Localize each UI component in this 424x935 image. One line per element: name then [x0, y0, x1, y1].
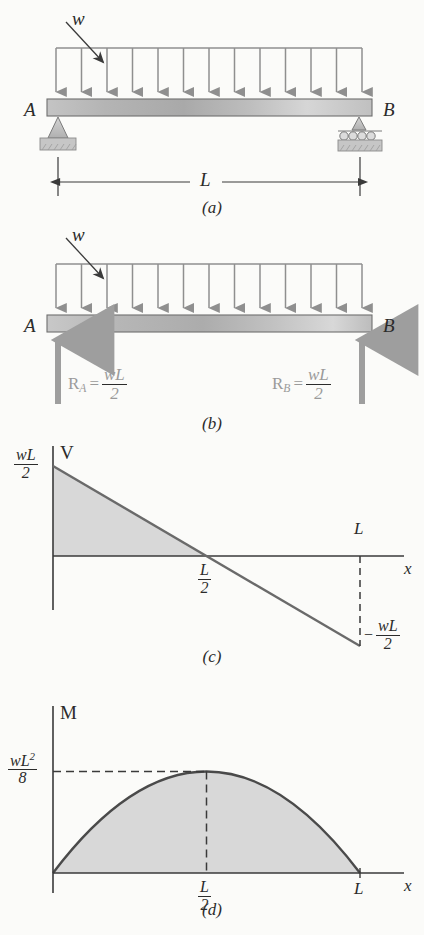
panel-b-support-a-label: A [24, 315, 36, 337]
reaction-a-equation: RA = wL 2 [68, 366, 127, 403]
reaction-a-name: R [68, 374, 79, 393]
panel-a-load-label: w [72, 8, 85, 30]
panel-c-graphics [53, 446, 404, 646]
figure-canvas [0, 0, 424, 935]
reaction-a-equals: = [89, 374, 99, 394]
panel-a-caption: (a) [0, 198, 424, 218]
moment-peak-label: wL2 8 [8, 751, 37, 787]
reaction-b-equals: = [293, 374, 303, 394]
moment-mid-numerator: L [198, 879, 211, 897]
shear-peak-numerator: wL [14, 447, 38, 465]
panel-b-support-b-label: B [383, 315, 395, 337]
shear-min-numerator: wL [376, 618, 400, 636]
reaction-b-subscript: B [283, 382, 290, 395]
panel-b-caption: (b) [0, 414, 424, 434]
moment-peak-exponent: 2 [30, 750, 35, 762]
panel-d-graphics [53, 706, 404, 893]
beam-figure: w A B L (a) w A B RA = wL 2 RB = wL 2 (b… [0, 0, 424, 935]
moment-peak-numerator: wL2 [8, 751, 37, 770]
reaction-a-denominator: 2 [102, 385, 127, 403]
shear-mid-denominator: 2 [198, 580, 211, 597]
shear-x-axis-label: x [404, 559, 412, 579]
panel-b-load-label: w [72, 224, 85, 246]
panel-a-span-label: L [200, 169, 211, 191]
shear-y-axis-label: V [60, 442, 74, 464]
moment-y-axis-label: M [60, 702, 77, 724]
shear-mid-tick-label: L 2 [198, 562, 211, 597]
moment-peak-denominator: 8 [8, 770, 37, 787]
shear-end-tick-label: L [354, 519, 363, 539]
panel-a-graphics [40, 22, 382, 196]
reaction-b-name: R [272, 374, 283, 393]
reaction-b-denominator: 2 [306, 385, 331, 403]
panel-d-caption: (d) [0, 900, 424, 920]
reaction-b-numerator: wL [306, 366, 331, 385]
moment-x-axis-label: x [404, 876, 412, 896]
shear-peak-label: wL 2 [14, 447, 38, 482]
shear-min-sign: − [364, 626, 373, 644]
reaction-a-numerator: wL [102, 366, 127, 385]
reaction-b-equation: RB = wL 2 [272, 366, 331, 403]
panel-a-support-a-label: A [24, 99, 36, 121]
panel-c-caption: (c) [0, 647, 424, 667]
shear-peak-denominator: 2 [14, 465, 38, 482]
reaction-a-subscript: A [79, 382, 86, 395]
shear-mid-numerator: L [198, 562, 211, 580]
moment-end-tick-label: L [354, 879, 363, 899]
panel-a-support-b-label: B [383, 99, 395, 121]
